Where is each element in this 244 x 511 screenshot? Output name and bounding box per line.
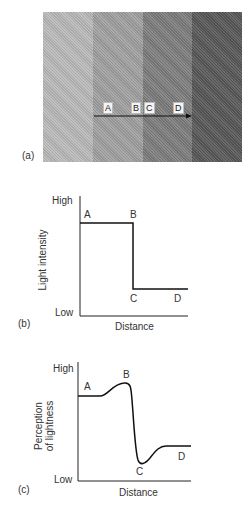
point-b-tag: B	[131, 102, 141, 114]
c-y-axis-title-line1: Perception	[33, 401, 44, 452]
b-point-b: B	[130, 209, 137, 220]
point-a-tag: A	[103, 102, 113, 114]
c-point-c: C	[136, 466, 143, 477]
c-x-axis-title: Distance	[119, 487, 158, 498]
perception-curve	[78, 383, 191, 464]
b-x-axis-title: Distance	[115, 321, 154, 332]
b-point-d: D	[174, 293, 181, 304]
c-point-d: D	[178, 451, 185, 462]
panel-b-label: (b)	[18, 318, 30, 329]
b-point-a: A	[84, 209, 91, 220]
arrowhead-icon	[186, 114, 192, 119]
panel-c-label: (c)	[18, 484, 30, 495]
c-y-axis-title: Perception of lightness	[33, 401, 55, 452]
distance-arrow	[0, 0, 244, 170]
c-y-low-label: Low	[54, 474, 72, 485]
point-c-tag: C	[144, 102, 155, 114]
y-low-label: Low	[55, 307, 73, 318]
point-d-tag: D	[173, 102, 184, 114]
intensity-line	[80, 223, 188, 289]
c-y-axis-title-line2: of lightness	[44, 401, 55, 452]
c-point-b: B	[123, 369, 130, 380]
y-high-label: High	[52, 195, 73, 206]
c-y-high-label: High	[53, 363, 74, 374]
panel-a-label: (a)	[22, 150, 34, 161]
c-point-a: A	[84, 381, 91, 392]
b-y-axis-title: Light intensity	[37, 229, 48, 290]
b-point-c: C	[130, 293, 137, 304]
